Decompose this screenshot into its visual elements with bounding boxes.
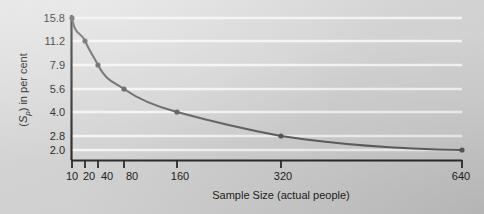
data-point [121,86,126,91]
y-tick-label: 5.6 [50,83,65,95]
data-line-standard-error [72,18,462,150]
y-tick-label: 4.0 [50,106,65,118]
chart-canvas: 15.8 11.2 7.9 5.6 4.0 2.8 2.0 10 20 40 8… [0,0,484,214]
chart-figure: 15.8 11.2 7.9 5.6 4.0 2.8 2.0 10 20 40 8… [0,0,484,214]
data-point [459,147,464,152]
x-tick-label: 160 [171,170,189,182]
data-point [82,38,87,43]
y-axis-title-rest: in per cent [17,53,29,107]
data-point [278,133,283,138]
x-tick-label: 40 [101,170,113,182]
svg-text:(Sp) in per cent: (Sp) in per cent [17,53,32,127]
y-tick-labels: 15.8 11.2 7.9 5.6 4.0 2.8 2.0 [44,12,65,156]
y-tick-label: 11.2 [44,35,65,47]
x-tick-label: 20 [83,170,95,182]
data-point [174,109,179,114]
y-tick-label: 2.8 [50,130,65,142]
x-tick-label: 10 [66,170,78,182]
x-tick-label: 320 [274,170,292,182]
x-axis-title: Sample Size (actual people) [212,189,350,201]
data-point [69,15,74,20]
gridlines [72,18,462,150]
x-tick-labels: 10 20 40 80 160 320 640 [66,170,470,182]
x-tick-label: 640 [452,170,470,182]
y-tick-label: 7.9 [50,59,65,71]
y-tick-label: 15.8 [44,12,65,24]
y-axis-title: (Sp) in per cent [17,53,32,127]
data-point [95,62,100,67]
y-tick-label: 2.0 [50,144,65,156]
data-points [69,15,464,152]
x-tick-label: 80 [126,170,138,182]
